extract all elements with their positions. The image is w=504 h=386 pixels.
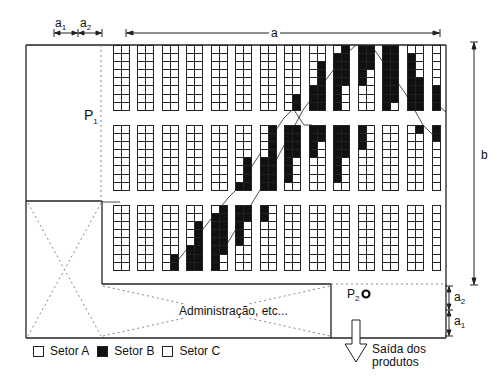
- rack-cell: [292, 102, 301, 111]
- storage-rack: [186, 125, 202, 191]
- storage-rack: [309, 205, 325, 271]
- rack-cell: [145, 102, 154, 111]
- storage-rack: [358, 45, 374, 111]
- rack-cell: [292, 182, 301, 191]
- p2-marker: [363, 291, 370, 298]
- legend: Setor A Setor B Setor C: [33, 344, 228, 358]
- storage-rack: [382, 45, 398, 111]
- rack-cell: [390, 102, 399, 111]
- legend-item-setor-c: Setor C: [162, 344, 220, 358]
- rack-cell: [219, 102, 228, 111]
- storage-rack: [113, 125, 129, 191]
- rack-cell: [341, 262, 350, 271]
- storage-rack: [432, 205, 440, 271]
- storage-rack: [382, 125, 398, 191]
- storage-rack: [186, 45, 202, 111]
- storage-rack: [333, 205, 349, 271]
- storage-rack: [358, 205, 374, 271]
- rack-cell: [390, 262, 399, 271]
- dim-label-a2-right: a2: [454, 290, 465, 306]
- storage-rack: [211, 125, 227, 191]
- layout-lines: [0, 0, 504, 386]
- legend-label: Setor A: [50, 344, 89, 358]
- rack-cell: [268, 262, 277, 271]
- storage-rack: [113, 45, 129, 111]
- exit-label: Saída dos produtos: [372, 343, 426, 369]
- storage-rack: [186, 205, 202, 271]
- rack-cell: [341, 182, 350, 191]
- storage-rack: [260, 45, 276, 111]
- storage-rack: [162, 205, 178, 271]
- rack-cell: [194, 182, 203, 191]
- rack-cell: [219, 182, 228, 191]
- rack-cell: [415, 182, 424, 191]
- rack-cell: [170, 262, 179, 271]
- storage-rack: [309, 45, 325, 111]
- rack-cell: [268, 102, 277, 111]
- exit-arrow-icon: [345, 320, 367, 362]
- storage-rack: [333, 45, 349, 111]
- storage-rack: [260, 125, 276, 191]
- storage-rack: [284, 45, 300, 111]
- storage-rack: [358, 125, 374, 191]
- dim-label-a: a: [269, 26, 280, 40]
- rack-cell: [432, 182, 441, 191]
- legend-label: Setor C: [179, 344, 220, 358]
- storage-rack: [162, 125, 178, 191]
- storage-rack: [235, 125, 251, 191]
- rack-cell: [366, 182, 375, 191]
- rack-cell: [268, 182, 277, 191]
- storage-rack: [407, 125, 423, 191]
- rack-cell: [194, 102, 203, 111]
- rack-cell: [317, 182, 326, 191]
- rack-cell: [170, 182, 179, 191]
- storage-rack: [211, 205, 227, 271]
- storage-rack: [407, 205, 423, 271]
- storage-rack: [211, 45, 227, 111]
- rack-cell: [432, 262, 441, 271]
- exit-label-line2: produtos: [372, 356, 426, 369]
- rack-cell: [432, 102, 441, 111]
- storage-rack: [382, 205, 398, 271]
- legend-label: Setor B: [114, 344, 154, 358]
- legend-swatch-white: [33, 346, 44, 357]
- storage-rack: [309, 125, 325, 191]
- rack-cell: [121, 102, 130, 111]
- rack-cell: [243, 182, 252, 191]
- rack-cell: [292, 262, 301, 271]
- rack-cell: [243, 262, 252, 271]
- rack-cell: [219, 262, 228, 271]
- rack-cell: [415, 262, 424, 271]
- storage-rack: [260, 205, 276, 271]
- rack-cell: [121, 262, 130, 271]
- admin-area-label: Administração, etc...: [179, 304, 288, 318]
- point-p2-label: P2: [347, 287, 359, 303]
- rack-cell: [243, 102, 252, 111]
- rack-cell: [390, 182, 399, 191]
- legend-item-setor-b: Setor B: [97, 344, 154, 358]
- storage-rack: [235, 45, 251, 111]
- legend-item-setor-a: Setor A: [33, 344, 89, 358]
- dim-label-b: b: [481, 148, 488, 162]
- dim-label-a1-right: a1: [454, 314, 465, 330]
- storage-rack: [137, 45, 153, 111]
- storage-rack: [137, 125, 153, 191]
- storage-rack: [432, 125, 440, 191]
- rack-cell: [366, 262, 375, 271]
- rack-cell: [366, 102, 375, 111]
- storage-rack: [407, 45, 423, 111]
- rack-cell: [121, 182, 130, 191]
- storage-rack: [162, 45, 178, 111]
- dim-label-a2-top: a2: [80, 16, 91, 32]
- rack-cell: [317, 102, 326, 111]
- storage-rack: [113, 205, 129, 271]
- storage-rack: [333, 125, 349, 191]
- rack-cell: [170, 102, 179, 111]
- rack-cell: [317, 262, 326, 271]
- rack-cell: [415, 102, 424, 111]
- storage-rack: [137, 205, 153, 271]
- dim-label-a1-top: a1: [55, 16, 66, 32]
- storage-rack: [432, 45, 440, 111]
- warehouse-layout-diagram: a1 a2 a b a2 a1 P1 P2 Administração, etc…: [0, 0, 504, 386]
- rack-cell: [194, 262, 203, 271]
